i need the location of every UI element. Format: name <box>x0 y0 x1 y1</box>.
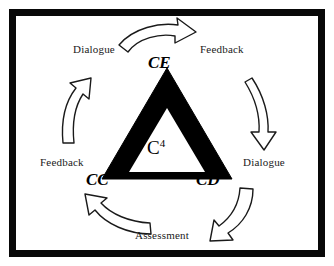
c4-triangle <box>102 68 232 179</box>
diagram-canvas <box>0 0 334 266</box>
arrow-top-icon <box>119 18 196 52</box>
center-label-base: C <box>147 137 160 158</box>
node-label-ce: CE <box>148 54 171 72</box>
center-label-superscript: 4 <box>160 137 166 149</box>
arrow-bottom-left-icon <box>85 194 151 234</box>
edge-label-feedback-left: Feedback <box>40 156 84 168</box>
edge-label-assessment: Assessment <box>135 229 189 241</box>
center-label-c4: C4 <box>147 138 165 157</box>
node-label-cd: CD <box>196 171 220 189</box>
edge-label-dialogue-right: Dialogue <box>243 156 285 168</box>
arrow-left-icon <box>63 78 91 143</box>
c4-cycle-diagram: Dialogue Feedback Dialogue Feedback Asse… <box>0 0 334 266</box>
edge-label-dialogue-top: Dialogue <box>73 43 115 55</box>
node-label-cc: CC <box>86 171 109 189</box>
arrow-right-icon <box>245 78 276 150</box>
arrow-bottom-right-icon <box>210 188 253 241</box>
edge-label-feedback-top: Feedback <box>200 43 244 55</box>
